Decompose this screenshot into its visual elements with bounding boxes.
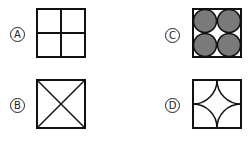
option-label-b: B	[10, 98, 25, 113]
option-label-a: A	[10, 27, 25, 42]
figure-a-quartered-square	[36, 8, 87, 59]
figure-d-arc-star	[192, 79, 243, 130]
figure-b-diagonal-square	[36, 79, 87, 130]
figure-c-four-circles	[192, 8, 243, 59]
option-label-d: D	[165, 98, 180, 113]
option-label-c: C	[165, 28, 180, 43]
